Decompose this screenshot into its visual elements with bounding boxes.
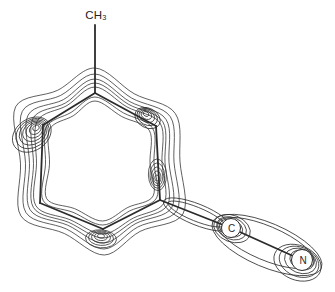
contour-peak-nests [6,103,330,288]
carbon-atom-label: C [228,224,235,234]
contour-line [26,79,174,243]
contour-line [42,97,158,225]
ring-bond-bottom-left [40,203,103,229]
exo-bond-ring-c [160,200,231,228]
electron-density-contour-figure: CH₃ C N [0,0,335,292]
contour-line [20,74,179,249]
contour-line [34,87,167,234]
methyl-group-label: CH₃ [85,10,106,22]
ring-bond-top-left [43,93,95,125]
contour-plot [0,0,335,292]
nitrogen-atom-label: N [299,256,306,266]
